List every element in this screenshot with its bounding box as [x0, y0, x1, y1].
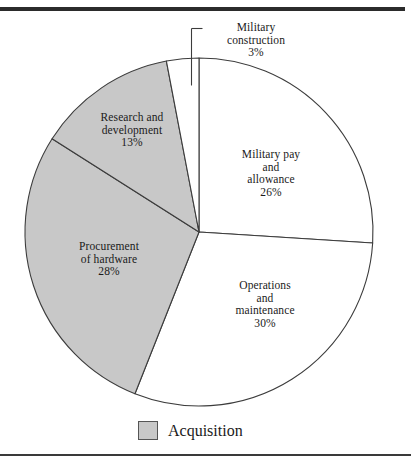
bottom-divider-rule — [0, 454, 411, 456]
chart-legend: Acquisition — [138, 421, 243, 440]
pie-slice-military-pay-and-allowance — [199, 58, 373, 243]
legend-swatch-acquisition — [138, 421, 158, 440]
pie-slice-group — [25, 58, 373, 406]
pie-chart-figure: Military construction 3% Research and de… — [0, 0, 411, 471]
pie-chart-canvas — [0, 0, 411, 471]
legend-label-acquisition: Acquisition — [168, 422, 243, 440]
